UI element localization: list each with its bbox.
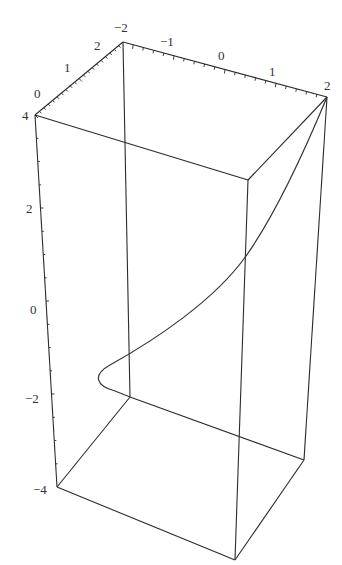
z-axis-labels: 4 2 0 −2 −4 [22,108,47,497]
x-tick-label-neg1: −1 [160,34,174,49]
y-tick-label-0: 0 [34,86,41,101]
box-edge-vertical-right [304,97,327,460]
box-edge-bottom-back [130,397,304,460]
y-tick-label-1: 1 [64,60,71,75]
z-tick-label-4: 4 [22,108,29,123]
z-tick-label-neg2: −2 [25,391,39,406]
box-edge-vertical-back [123,42,130,397]
box-edge-top-front [35,115,248,180]
x-tick-label-0: 0 [218,48,225,63]
box-edge-bottom-right [235,460,304,560]
bounding-box [35,42,327,560]
x-tick-label-2: 2 [324,78,331,93]
x-axis-labels: −2 −1 0 1 2 [114,20,331,93]
x-axis-ticks [133,45,317,98]
y-tick-label-2: 2 [94,38,101,53]
z-tick-label-0: 0 [30,302,37,317]
space-curve [98,97,327,397]
x-tick-label-neg2: −2 [114,20,128,35]
box-edge-top-right [248,97,327,180]
x-tick-label-1: 1 [269,64,276,79]
y-axis-ticks [35,46,121,118]
z-tick-label-neg4: −4 [33,482,47,497]
box-edge-vertical-front [235,180,248,560]
z-tick-label-2: 2 [26,201,33,216]
3d-plot: 0 1 2 −2 −1 0 1 2 4 2 0 −2 −4 [0,0,342,565]
box-edge-bottom-left [57,397,130,487]
box-edge-bottom-front [57,487,235,560]
